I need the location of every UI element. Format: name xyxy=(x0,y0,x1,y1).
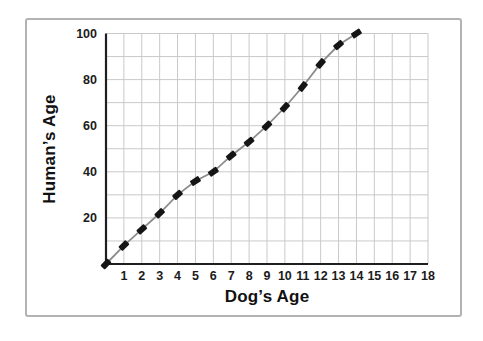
x-tick-label: 9 xyxy=(264,269,271,283)
x-tick-label: 10 xyxy=(278,269,292,283)
y-tick-label: 40 xyxy=(83,165,97,179)
y-tick-label: 100 xyxy=(76,27,97,41)
gridlines xyxy=(106,34,428,265)
x-tick-label: 7 xyxy=(228,269,235,283)
x-tick-label: 8 xyxy=(246,269,253,283)
x-axis-title: Dog’s Age xyxy=(225,287,310,306)
x-tick-label: 18 xyxy=(421,269,435,283)
x-tick-label: 15 xyxy=(367,269,381,283)
x-tick-label: 11 xyxy=(296,269,309,283)
x-tick-label: 17 xyxy=(403,269,417,283)
x-tick-label: 16 xyxy=(385,269,399,283)
x-tick-label: 13 xyxy=(332,269,346,283)
x-tick-label: 2 xyxy=(138,269,145,283)
y-tick-labels: 20406080100 xyxy=(76,27,97,225)
dog-age-chart: 123456789101112131415161718 20406080100 … xyxy=(0,0,483,341)
x-tick-label: 3 xyxy=(156,269,163,283)
x-tick-label: 5 xyxy=(192,269,199,283)
x-tick-label: 6 xyxy=(210,269,217,283)
page-background: 123456789101112131415161718 20406080100 … xyxy=(0,0,483,341)
x-tick-label: 12 xyxy=(314,269,328,283)
x-tick-label: 14 xyxy=(349,269,363,283)
y-tick-label: 80 xyxy=(83,73,97,87)
y-tick-label: 20 xyxy=(83,211,97,225)
x-tick-label: 4 xyxy=(174,269,181,283)
x-tick-label: 1 xyxy=(120,269,127,283)
y-axis-title: Human’s Age xyxy=(40,94,59,204)
y-tick-label: 60 xyxy=(83,119,97,133)
x-tick-labels: 123456789101112131415161718 xyxy=(120,269,435,283)
